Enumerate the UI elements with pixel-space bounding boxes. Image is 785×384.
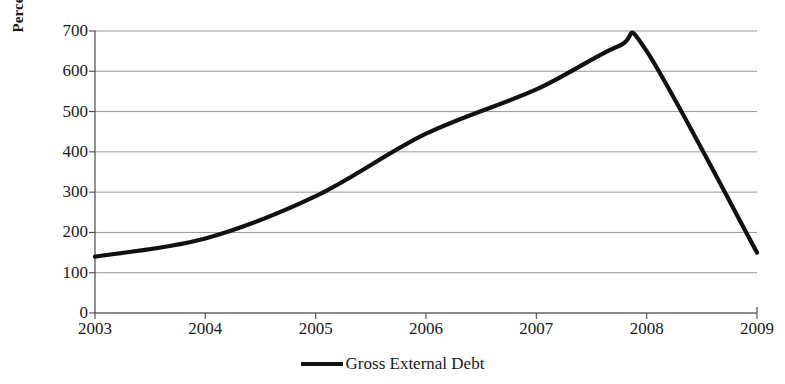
legend-entry-label: Gross External Debt (346, 355, 485, 373)
x-axis-tick-label: 2009 (717, 320, 785, 338)
x-axis-tick-label: 2003 (55, 320, 135, 338)
x-axis-tick-label: 2007 (496, 320, 576, 338)
series-line-gross-external-debt (95, 33, 757, 257)
chart-legend: Gross External Debt (0, 351, 785, 377)
x-axis-tick-label: 2004 (165, 320, 245, 338)
legend-entry-gross-external-debt: Gross External Debt (301, 355, 485, 373)
y-axis-ticks (89, 31, 95, 313)
x-axis-tick-label: 2008 (607, 320, 687, 338)
legend-line-swatch-icon (301, 362, 343, 366)
x-axis-tick-label: 2006 (386, 320, 466, 338)
line-chart-figure: Percentage Change 0100200300400500600700… (0, 0, 785, 384)
x-axis-tick-label: 2005 (276, 320, 356, 338)
